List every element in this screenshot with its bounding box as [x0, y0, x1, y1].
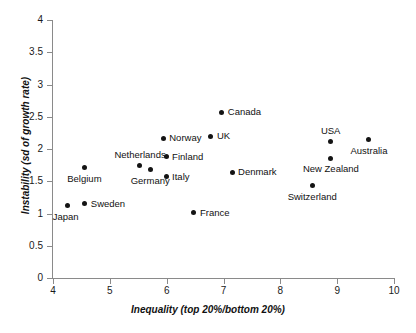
- x-tick-label: 8: [268, 286, 292, 296]
- x-tick-label: 9: [325, 286, 349, 296]
- y-tick: [47, 181, 52, 182]
- x-tick-label: 5: [98, 286, 122, 296]
- data-point-label: France: [200, 208, 230, 218]
- data-point: [82, 165, 87, 170]
- data-point-label: Norway: [169, 133, 201, 143]
- data-point-label: New Zealand: [303, 164, 359, 174]
- data-point-label: Sweden: [91, 199, 125, 209]
- data-point-label: Japan: [53, 212, 79, 222]
- y-tick: [47, 278, 52, 279]
- data-point-label: Belgium: [67, 174, 101, 184]
- data-point-label: UK: [217, 131, 230, 141]
- x-tick: [337, 279, 338, 284]
- x-tick-label: 7: [212, 286, 236, 296]
- x-tick-label: 6: [155, 286, 179, 296]
- data-point: [164, 154, 169, 159]
- y-tick: [47, 246, 52, 247]
- x-tick: [224, 279, 225, 284]
- x-axis-title: Inequality (top 20%/bottom 20%): [0, 304, 416, 315]
- data-point-label: Finland: [172, 152, 203, 162]
- y-tick: [47, 117, 52, 118]
- x-tick-label: 4: [41, 286, 65, 296]
- scatter-chart: 00.511.522.533.54 45678910 Inequality (t…: [0, 0, 416, 333]
- x-tick-label: 10: [382, 286, 406, 296]
- x-tick: [110, 279, 111, 284]
- data-point-label: Netherlands: [114, 150, 165, 160]
- data-point-label: Switzerland: [288, 192, 337, 202]
- data-point-label: USA: [321, 126, 341, 136]
- y-tick: [47, 52, 52, 53]
- data-point-label: Australia: [350, 146, 387, 156]
- data-point-label: Denmark: [238, 167, 277, 177]
- x-tick: [167, 279, 168, 284]
- data-points-layer: [53, 20, 394, 278]
- data-point: [161, 136, 166, 141]
- data-point: [148, 167, 153, 172]
- x-tick: [53, 279, 54, 284]
- data-point: [164, 174, 169, 179]
- y-tick: [47, 214, 52, 215]
- y-tick: [47, 85, 52, 86]
- y-tick: [47, 20, 52, 21]
- data-point: [230, 170, 235, 175]
- data-point-label: Italy: [172, 172, 189, 182]
- data-point: [310, 183, 315, 188]
- y-axis-title: Instability (sd of growth rate): [20, 16, 31, 276]
- y-tick: [47, 149, 52, 150]
- data-point-label: Canada: [228, 107, 261, 117]
- x-tick: [280, 279, 281, 284]
- x-tick: [394, 279, 395, 284]
